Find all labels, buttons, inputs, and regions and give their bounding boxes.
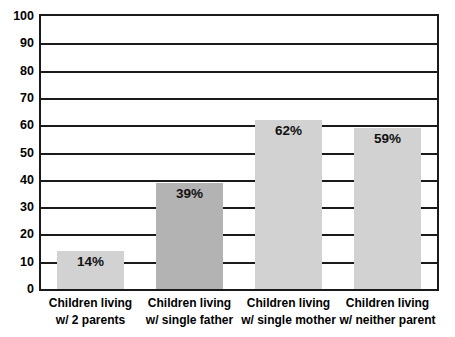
x-axis-category-line: Children living	[35, 295, 146, 312]
bar-value-label: 14%	[57, 255, 124, 269]
x-axis-category-line: Children living	[233, 295, 344, 312]
y-axis-tick-label: 0	[0, 283, 34, 296]
bar: 62%	[255, 120, 322, 289]
y-axis-tick-label: 30	[0, 201, 34, 214]
bar-chart: 1009080706050403020100 14%39%62%59% Chil…	[0, 0, 455, 337]
x-axis-category-label: Children livingw/ 2 parents	[35, 295, 146, 329]
y-axis: 1009080706050403020100	[0, 0, 34, 291]
x-axis-category-line: w/ single father	[134, 312, 245, 329]
plot-area: 14%39%62%59%	[39, 14, 439, 291]
y-axis-tick-label: 40	[0, 174, 34, 187]
x-axis-category-label: Children livingw/ neither parent	[332, 295, 443, 329]
bar: 59%	[354, 128, 421, 289]
x-axis-category-line: w/ single mother	[233, 312, 344, 329]
y-axis-tick-label: 100	[0, 10, 34, 23]
y-axis-tick-label: 90	[0, 37, 34, 50]
y-axis-tick-label: 60	[0, 119, 34, 132]
x-axis-category-line: Children living	[332, 295, 443, 312]
bar: 39%	[156, 183, 223, 289]
y-axis-tick-label: 20	[0, 228, 34, 241]
bar-value-label: 62%	[255, 124, 322, 138]
y-axis-tick-label: 50	[0, 146, 34, 159]
bar-value-label: 39%	[156, 187, 223, 201]
x-axis: Children livingw/ 2 parentsChildren livi…	[39, 295, 439, 337]
bar-value-label: 59%	[354, 132, 421, 146]
bars: 14%39%62%59%	[41, 16, 437, 289]
bar: 14%	[57, 251, 124, 289]
x-axis-category-label: Children livingw/ single mother	[233, 295, 344, 329]
x-axis-category-label: Children livingw/ single father	[134, 295, 245, 329]
y-axis-tick-label: 10	[0, 255, 34, 268]
x-axis-category-line: w/ 2 parents	[35, 312, 146, 329]
y-axis-tick-label: 70	[0, 92, 34, 105]
x-axis-category-line: w/ neither parent	[332, 312, 443, 329]
x-axis-category-line: Children living	[134, 295, 245, 312]
y-axis-tick-label: 80	[0, 64, 34, 77]
